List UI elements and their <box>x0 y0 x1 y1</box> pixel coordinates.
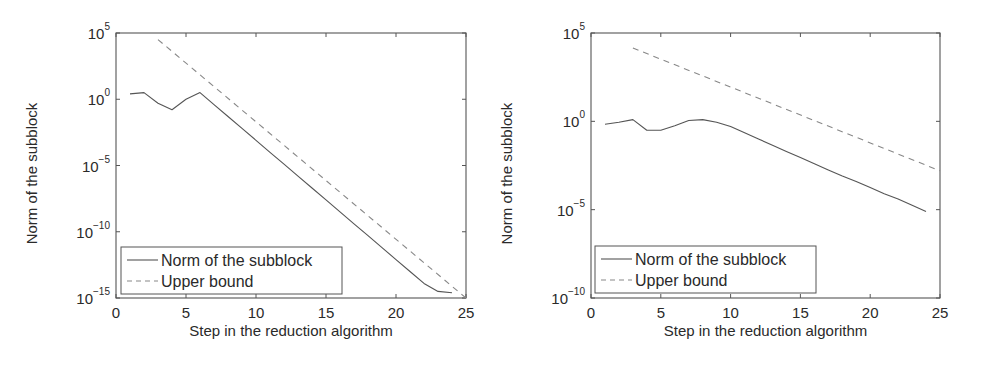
x-axis-label: Step in the reduction algorithm <box>664 322 867 339</box>
y-tick-label: 10−5 <box>557 198 586 219</box>
x-tick-label: 5 <box>657 304 665 321</box>
x-tick-label: 20 <box>862 304 879 321</box>
x-tick-label: 25 <box>932 304 949 321</box>
upper-bound-line <box>633 48 940 171</box>
figure-right: 051015202510510010−510−10Step in the red… <box>0 0 497 366</box>
y-tick-label: 10−10 <box>551 286 585 307</box>
y-axis-label: Norm of the subblock <box>498 102 515 244</box>
chart-right: 051015202510510010−510−10Step in the red… <box>0 0 995 366</box>
x-tick-label: 0 <box>587 304 595 321</box>
x-tick-label: 10 <box>722 304 739 321</box>
legend: Norm of the subblockUpper bound <box>595 246 816 293</box>
legend-label: Upper bound <box>635 272 728 289</box>
x-tick-label: 15 <box>792 304 809 321</box>
norm-line <box>605 120 926 212</box>
y-tick-label: 100 <box>563 109 586 130</box>
y-tick-label: 105 <box>563 21 586 42</box>
legend-label: Norm of the subblock <box>635 251 787 268</box>
